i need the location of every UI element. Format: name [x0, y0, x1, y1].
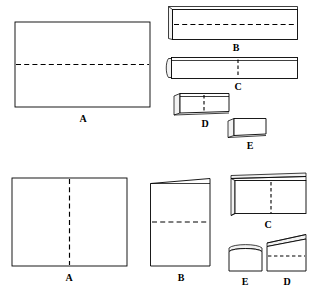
label-top-a: A — [79, 113, 87, 124]
shape-top-c — [166, 58, 297, 79]
shape-top-d — [174, 94, 229, 116]
label-top-b: B — [233, 42, 240, 53]
shape-bottom-a — [12, 178, 127, 266]
fold-diagram-container: A B C D — [0, 0, 313, 290]
shape-top-e — [228, 119, 266, 138]
fold-diagram-canvas: A B C D — [0, 0, 313, 290]
top-e-outline — [234, 119, 266, 136]
shape-top-a — [15, 22, 150, 107]
top-e-left-tab — [228, 119, 234, 138]
label-top-c: C — [234, 81, 241, 92]
label-bottom-e: E — [242, 276, 249, 287]
label-bottom-b: B — [178, 272, 185, 283]
label-top-d: D — [201, 118, 208, 129]
label-top-e: E — [247, 140, 254, 151]
shape-bottom-b — [151, 179, 211, 267]
shape-bottom-d — [267, 235, 306, 272]
bottom-e-outline — [229, 249, 262, 272]
label-bottom-d: D — [283, 276, 290, 287]
shape-top-b — [169, 7, 298, 40]
top-d-left-tab — [174, 94, 180, 116]
top-b-left-tab — [169, 7, 173, 40]
bottom-c-left-band — [231, 179, 235, 216]
label-bottom-a: A — [65, 272, 73, 283]
shape-bottom-c — [231, 173, 306, 216]
shape-bottom-e — [229, 245, 262, 271]
label-bottom-c: C — [264, 219, 271, 230]
